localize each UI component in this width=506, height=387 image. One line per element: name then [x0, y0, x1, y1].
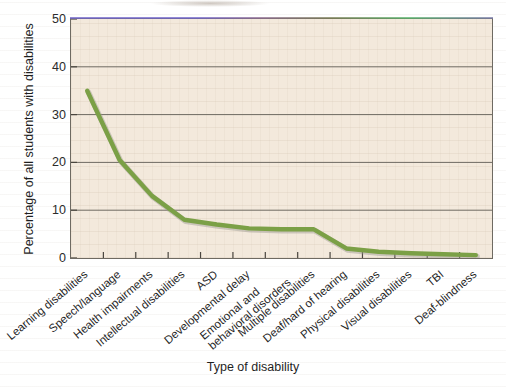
- x-tick-label: TBI: [425, 268, 447, 289]
- y-tick-label: 50: [40, 12, 66, 26]
- plot-area: [70, 18, 493, 259]
- data-line: [87, 91, 476, 255]
- y-tick-label: 30: [40, 108, 66, 122]
- y-axis-ticks: 01020304050: [36, 18, 66, 259]
- data-line-shadow: [88, 92, 477, 256]
- scan-smudge: [150, 0, 270, 7]
- x-tick-label: ASD: [194, 268, 220, 293]
- x-tick-label-line: TBI: [425, 268, 446, 289]
- x-axis-ticks: Learning disabilitiesSpeech/languageHeal…: [0, 262, 506, 362]
- y-axis-title: Percentage of all students with disabili…: [22, 14, 36, 264]
- y-tick-label: 10: [40, 203, 66, 217]
- x-tick-label-line: ASD: [194, 268, 220, 292]
- line-series-svg: [71, 19, 492, 258]
- y-tick-label: 40: [40, 60, 66, 74]
- x-axis-title: Type of disability: [0, 360, 506, 374]
- y-tick-label: 20: [40, 155, 66, 169]
- chart-figure: Percentage of all students with disabili…: [0, 0, 506, 387]
